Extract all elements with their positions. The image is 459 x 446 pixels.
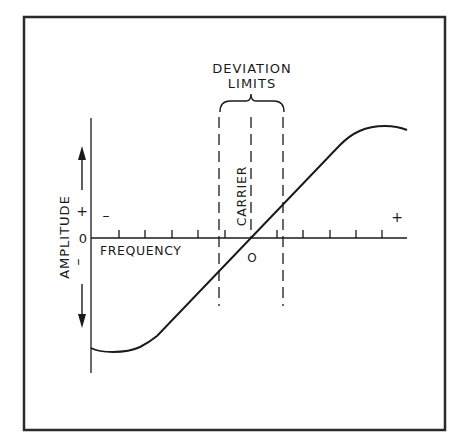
frequency-plus-marker: +: [391, 209, 403, 225]
deviation-brace: [220, 94, 284, 112]
amplitude-plus-marker: +: [76, 203, 88, 219]
frequency-label: FREQUENCY: [100, 243, 182, 258]
amplitude-zero-marker: 0: [79, 231, 87, 246]
carrier-zero-marker: O: [247, 251, 256, 265]
amplitude-down-arrow-icon: [78, 284, 86, 328]
discriminator-s-curve: [91, 126, 407, 352]
frequency-minus-marker: –: [103, 207, 110, 223]
deviation-title-line2: LIMITS: [228, 76, 276, 91]
amplitude-minus-marker: –: [69, 259, 85, 266]
deviation-limits-diagram: DEVIATION LIMITS AMPLITUDE + 0 – – +: [0, 0, 459, 446]
carrier-label: CARRIER: [234, 166, 249, 227]
deviation-title-line1: DEVIATION: [212, 61, 292, 76]
amplitude-up-arrow-icon: [78, 146, 86, 190]
